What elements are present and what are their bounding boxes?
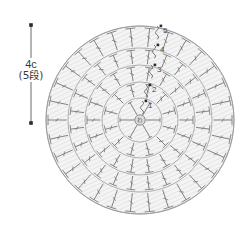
round-number-label: 2	[152, 85, 157, 94]
round-number-label: 5	[163, 26, 168, 35]
round-number-label: 4	[160, 45, 165, 54]
round-number-label: 3	[157, 65, 162, 74]
dimension-top-marker	[29, 23, 33, 27]
dimension-rounds-label: (5段)	[19, 69, 44, 81]
crochet-chart-svg: わ 12345 4c (5段)	[0, 0, 248, 235]
round-start-dot	[149, 84, 152, 87]
magic-ring-label: わ	[137, 117, 143, 123]
round-start-dot	[145, 100, 148, 103]
round-number-label: 1	[148, 101, 153, 110]
round-start-dot	[160, 25, 163, 28]
dimension-bottom-marker	[29, 121, 33, 125]
motif-group: わ 12345	[46, 25, 234, 214]
round-start-dot	[154, 64, 157, 67]
dimension-annotation: 4c (5段)	[14, 23, 49, 125]
diagram-canvas: わ 12345 4c (5段)	[0, 0, 248, 235]
round-start-dot	[157, 44, 160, 47]
